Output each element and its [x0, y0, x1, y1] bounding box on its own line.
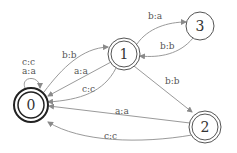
edge-2-0-c [48, 122, 192, 140]
state-1: 1 [108, 38, 140, 70]
edge-label: b:b [165, 76, 180, 86]
edge-label: a:a [115, 106, 129, 116]
edge-label: b:a [148, 11, 163, 21]
state-label: 1 [120, 46, 129, 62]
state-2: 2 [189, 111, 221, 143]
edge-label: c:c [82, 84, 95, 94]
state-diagram: a:a c:c b:b a:a c:c b:a b:b b:b a:a c:c … [0, 0, 237, 153]
edge-1-2 [134, 66, 192, 112]
state-label: 2 [201, 119, 210, 135]
edge-label: b:b [160, 41, 175, 51]
edge-label: b:b [62, 50, 77, 60]
edge-label: a:a [22, 66, 36, 76]
state-0: 0 [14, 88, 48, 122]
edge-label: c:c [22, 57, 35, 67]
state-label: 3 [196, 18, 205, 34]
edge-labels: a:a c:c b:b a:a c:c b:a b:b b:b a:a c:c [22, 11, 180, 141]
state-3: 3 [186, 12, 214, 40]
state-label: 0 [27, 97, 36, 113]
edge-label: c:c [104, 131, 117, 141]
edge-label: a:a [74, 66, 88, 76]
